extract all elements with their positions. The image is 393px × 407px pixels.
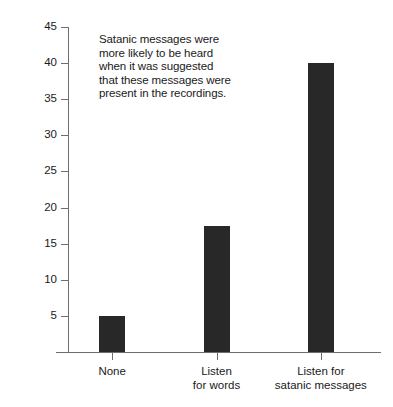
y-tick-mark [61,208,68,209]
y-tick-mark [61,27,68,28]
y-tick-label: 30 [17,129,57,141]
y-tick-label: 35 [17,93,57,105]
bar [308,63,334,352]
bar [204,226,230,352]
bar-chart: Percent hearing satanic-related words 51… [0,0,393,407]
annotation-line: more likely to be heard [99,47,299,61]
x-tick-label-line: Listen for [246,364,393,378]
annotation-line: Satanic messages were [99,33,299,47]
y-tick-label: 45 [17,21,57,33]
x-tick-mark [217,352,218,360]
x-tick-label-line: satanic messages [246,378,393,392]
y-tick-mark [61,244,68,245]
x-tick-label: Listen forsatanic messages [246,364,393,392]
y-tick-label: 5 [17,310,57,322]
y-tick-mark [61,63,68,64]
annotation-line: when it was suggested [99,60,299,74]
y-tick-mark [61,316,68,317]
y-tick-mark [61,135,68,136]
y-tick-mark [61,280,68,281]
annotation-line: present in the recordings. [99,87,299,101]
y-tick-label: 40 [17,57,57,69]
y-tick-mark [61,171,68,172]
chart-annotation: Satanic messages were more likely to be … [99,33,299,101]
x-tick-mark [321,352,322,360]
y-tick-label: 25 [17,165,57,177]
bar [99,316,125,352]
y-tick-label: 10 [17,274,57,286]
y-tick-label: 15 [17,238,57,250]
x-axis-line [56,352,381,353]
y-tick-mark [61,99,68,100]
y-tick-label: 20 [17,202,57,214]
annotation-line: that these messages were [99,74,299,88]
x-tick-mark [112,352,113,360]
